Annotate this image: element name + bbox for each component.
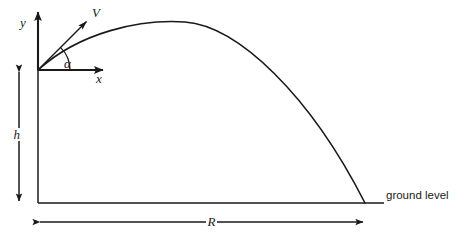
velocity-vector-arrow	[38, 22, 87, 71]
velocity-label: V	[92, 6, 100, 19]
range-label: R	[206, 215, 217, 228]
projectile-diagram-svg	[0, 0, 461, 245]
height-label: h	[12, 128, 22, 141]
ground-level-label: ground level	[386, 190, 449, 202]
launch-angle-label: α	[64, 57, 71, 70]
y-axis-label: y	[20, 16, 26, 29]
x-axis-label: x	[96, 72, 102, 85]
diagram-canvas: y x V α h R ground level	[0, 0, 461, 245]
trajectory-curve	[38, 22, 365, 203]
